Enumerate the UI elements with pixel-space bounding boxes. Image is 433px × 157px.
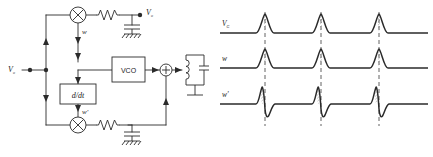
- node-input-junction: [44, 68, 48, 72]
- waveform-svg: VG w w': [216, 0, 433, 157]
- arrow-up-spine: [75, 37, 81, 44]
- summing-junction[interactable]: [160, 64, 172, 76]
- input-voltage-label: Vo: [8, 65, 15, 75]
- arrow-feedback-up: [163, 98, 169, 105]
- trace-wprime: [220, 87, 428, 117]
- trace-vg-label: VG: [222, 19, 230, 29]
- capacitor-tank: [199, 55, 209, 85]
- differentiator-block-label: d/dt: [72, 91, 85, 100]
- ground-bottom: [122, 141, 141, 145]
- arrow-down-spine-b: [75, 77, 81, 84]
- mixer-bottom[interactable]: [70, 117, 86, 133]
- trace-wprime-label: w': [222, 90, 229, 99]
- alignment-markers: [265, 12, 379, 126]
- resistor-bottom: [96, 120, 120, 130]
- trace-wprime-line: [220, 87, 428, 117]
- trace-vg: [220, 14, 428, 33]
- vco-block-label: VCO: [121, 67, 137, 74]
- circuit-svg: VCO d/dt: [0, 0, 216, 157]
- node-output-terminal: [138, 13, 142, 17]
- inductor-tank: [186, 55, 189, 85]
- trace-w: [220, 49, 428, 68]
- figure-root: VCO d/dt: [0, 0, 433, 157]
- mid-signal-label: w: [82, 28, 87, 36]
- trace-w-label: w: [222, 54, 227, 63]
- arrow-tank-in: [175, 67, 182, 73]
- arrow-up-top: [43, 38, 49, 45]
- arrow-sum-left: [152, 67, 159, 73]
- deriv-signal-label: w': [82, 108, 89, 116]
- waveform-timing-plot: VG w w': [216, 0, 433, 157]
- ground-top: [122, 34, 141, 38]
- block-diagram-circuit: VCO d/dt: [0, 0, 216, 157]
- capacitor-bottom: [124, 132, 140, 141]
- arrow-down-bottom: [43, 95, 49, 102]
- arrow-down-spine-a: [75, 53, 81, 60]
- node-input-terminal: [28, 68, 32, 72]
- arrow-down-spine-c: [75, 105, 81, 112]
- output-voltage-label: Vo: [146, 8, 153, 18]
- mixer-top[interactable]: [70, 7, 86, 23]
- capacitor-top: [124, 25, 140, 34]
- trace-vg-line: [220, 14, 428, 33]
- trace-w-line: [220, 49, 428, 68]
- resistor-top: [96, 10, 120, 20]
